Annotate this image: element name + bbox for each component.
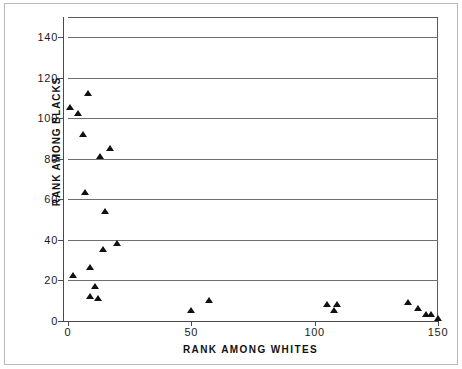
data-point-marker: [99, 246, 107, 252]
x-axis-line: [63, 321, 438, 322]
y-axis-tick: [58, 280, 63, 281]
x-axis-tick-label: 0: [65, 326, 72, 338]
y-axis-tick: [58, 199, 63, 200]
gridline: [68, 199, 438, 200]
gridline: [68, 37, 438, 38]
y-axis-tick: [58, 240, 63, 241]
data-point-marker: [94, 295, 102, 301]
data-point-marker: [205, 297, 213, 303]
y-axis-tick: [58, 321, 63, 322]
data-point-marker: [69, 272, 77, 278]
gridline: [68, 118, 438, 119]
data-point-marker: [96, 153, 104, 159]
data-point-marker: [106, 145, 114, 151]
data-point-marker: [434, 315, 442, 321]
data-point-marker: [86, 264, 94, 270]
y-axis-tick-label: 0: [51, 315, 58, 327]
data-point-marker: [330, 307, 338, 313]
x-axis-tick-label: 100: [304, 326, 324, 338]
y-axis-tick-label: 20: [44, 274, 58, 286]
x-axis-tick-labels: 050100150: [63, 326, 443, 342]
data-point-marker: [74, 110, 82, 116]
gridline: [68, 78, 438, 79]
gridline: [68, 159, 438, 160]
y-axis-title: RANK AMONG BLACKS: [51, 42, 62, 242]
data-point-marker: [91, 283, 99, 289]
gridline: [68, 240, 438, 241]
y-axis-tick: [58, 37, 63, 38]
data-point-marker: [113, 240, 121, 246]
x-axis-tick: [68, 321, 69, 326]
x-axis-title: RANK AMONG WHITES: [63, 344, 438, 355]
x-axis-tick-label: 50: [185, 326, 199, 338]
y-axis-tick: [58, 118, 63, 119]
scatter-plot-figure: 020406080100120140 050100150 RANK AMONG …: [0, 0, 462, 369]
data-point-marker: [404, 299, 412, 305]
y-axis-line: [63, 17, 64, 321]
y-axis-tick: [58, 78, 63, 79]
data-point-marker: [101, 208, 109, 214]
data-point-marker: [187, 307, 195, 313]
y-axis-tick: [58, 159, 63, 160]
x-axis-tick-label: 150: [428, 326, 448, 338]
x-axis-tick: [438, 321, 439, 326]
plot-area: [63, 17, 438, 321]
x-axis-tick: [191, 321, 192, 326]
plot-frame: [68, 17, 438, 321]
gridline: [68, 280, 438, 281]
data-point-marker: [79, 131, 87, 137]
data-point-marker: [84, 90, 92, 96]
data-point-marker: [81, 189, 89, 195]
x-axis-tick: [315, 321, 316, 326]
